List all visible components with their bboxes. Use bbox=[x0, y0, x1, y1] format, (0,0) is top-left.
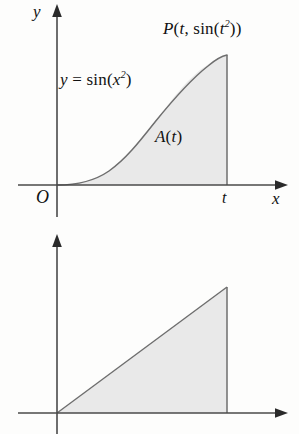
y-axis-arrowhead bbox=[52, 234, 62, 247]
point-p-func: sin bbox=[193, 19, 213, 38]
y-axis-arrowhead bbox=[52, 4, 62, 17]
origin-label: O bbox=[36, 188, 49, 206]
point-p-label: P(t, sin(t2)) bbox=[163, 19, 242, 37]
math-figure: y x O t P(t, sin(t2)) y = sin(x2) A(t) y… bbox=[0, 0, 299, 434]
equation-close: ) bbox=[126, 70, 132, 89]
region-a-close: ) bbox=[176, 127, 182, 146]
y-axis-label: y bbox=[33, 3, 41, 20]
point-p-comma: , bbox=[184, 19, 193, 38]
x-axis-arrowhead bbox=[275, 408, 288, 418]
panel-top-graphic bbox=[0, 0, 299, 217]
point-p-close: ) bbox=[236, 19, 242, 38]
equation-func: sin bbox=[86, 70, 106, 89]
x-tick-label-t: t bbox=[222, 190, 227, 206]
curve-equation-label: y = sin(x2) bbox=[60, 70, 132, 88]
panel-bottom-graphic bbox=[0, 217, 299, 434]
region-a-name: A bbox=[155, 127, 166, 146]
panel-area-b: y x O t P(t, sin(t2)) B(t) bbox=[0, 217, 299, 434]
point-p-name: P bbox=[163, 19, 174, 38]
panel-area-a: y x O t P(t, sin(t2)) y = sin(x2) A(t) bbox=[0, 0, 299, 217]
equation-lhs: y bbox=[60, 70, 68, 89]
equation-var: x bbox=[113, 70, 121, 89]
equation-equals: = bbox=[68, 70, 87, 89]
region-label-a: A(t) bbox=[155, 128, 182, 145]
x-axis-label: x bbox=[272, 190, 280, 207]
